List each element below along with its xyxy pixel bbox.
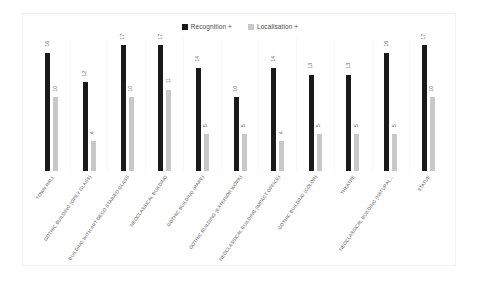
recognition-bar[interactable] [346,75,351,171]
category-tick: NEOCLASSICAL BUILDING (IMPACT OFFICE) [259,171,297,267]
plot-area: 1610124171017111451051441351351651710 [33,38,447,171]
bar-value-label: 5 [392,124,398,127]
localisation-bar[interactable] [392,134,397,171]
recognition-bar-wrap: 13 [309,38,314,171]
localisation-bar[interactable] [354,134,359,171]
bar-value-label: 13 [346,63,352,69]
bar-value-label: 12 [83,71,89,77]
localisation-bar[interactable] [242,134,247,171]
bar-group: 135 [334,38,372,171]
localisation-bar-wrap: 10 [430,38,435,171]
localisation-bar-wrap: 5 [204,38,209,171]
localisation-bar[interactable] [279,141,284,171]
bar-value-label: 10 [128,85,134,91]
bar-group: 1710 [108,38,146,171]
recognition-bar-wrap: 17 [422,38,427,171]
bar-group: 124 [71,38,109,171]
bar-group: 1610 [33,38,71,171]
bar-value-label: 17 [421,34,427,40]
localisation-bar[interactable] [129,97,134,171]
recognition-bar-wrap: 17 [158,38,163,171]
legend-label-recognition: Recognition + [191,23,232,30]
localisation-bar-wrap: 10 [53,38,58,171]
bar-value-label: 5 [204,124,210,127]
recognition-bar[interactable] [309,75,314,171]
recognition-bar[interactable] [83,82,88,171]
category-label: THEATRE [340,175,356,196]
category-tick: GOTHIC BUILDING (COLOR) [296,171,334,267]
localisation-bar-wrap: 4 [279,38,284,171]
localisation-bar[interactable] [204,134,209,171]
bar-value-label: 16 [384,41,390,47]
localisation-bar-wrap: 4 [91,38,96,171]
bar-value-label: 5 [317,124,323,127]
recognition-bar[interactable] [196,68,201,171]
bar-value-label: 17 [120,34,126,40]
bar-group: 165 [372,38,410,171]
localisation-bar-wrap: 10 [129,38,134,171]
localisation-bar-wrap: 5 [317,38,322,171]
legend-item-localisation: Localisation + [248,23,298,30]
bar-value-label: 4 [279,131,285,134]
category-tick: GOTHIC BUILDING (RARE) [184,171,222,267]
recognition-bar-wrap: 12 [83,38,88,171]
category-tick: STATUE [409,171,447,267]
bar-value-label: 17 [158,34,164,40]
recognition-bar[interactable] [158,45,163,171]
bar-group: 145 [184,38,222,171]
bar-value-label: 10 [53,85,59,91]
localisation-bar-wrap: 5 [392,38,397,171]
legend-item-recognition: Recognition + [182,23,232,30]
recognition-bar-wrap: 13 [346,38,351,171]
bar-group: 105 [221,38,259,171]
recognition-bar-wrap: 16 [45,38,50,171]
recognition-bar[interactable] [45,53,50,171]
bar-value-label: 16 [45,41,51,47]
localisation-bar[interactable] [317,134,322,171]
category-label: STATUE [418,175,432,193]
localisation-bar[interactable] [91,141,96,171]
bar-value-label: 13 [309,63,315,69]
localisation-bar-wrap: 5 [242,38,247,171]
bar-group: 144 [259,38,297,171]
recognition-bar[interactable] [234,97,239,171]
bar-value-label: 14 [196,56,202,62]
category-tick: NEOCLASSICAL BUILDING [146,171,184,267]
bar-value-label: 5 [354,124,360,127]
recognition-bar-wrap: 16 [384,38,389,171]
recognition-bar-wrap: 14 [271,38,276,171]
legend-label-localisation: Localisation + [257,23,298,30]
localisation-swatch-icon [248,24,254,30]
recognition-bar-wrap: 14 [196,38,201,171]
bar-value-label: 14 [271,56,277,62]
category-axis: TOWN HALLGOTHIC BUILDING (GREY GLASS)BUI… [33,171,447,267]
localisation-bar[interactable] [166,90,171,171]
category-tick: NEOCLASSICAL BUILDING (NATURAL... [372,171,410,267]
recognition-bar-wrap: 10 [234,38,239,171]
localisation-bar[interactable] [430,97,435,171]
bar-value-label: 11 [166,78,172,84]
recognition-bar[interactable] [422,45,427,171]
bar-groups: 1610124171017111451051441351351651710 [33,38,447,171]
chart-frame: Recognition + Localisation + 16101241710… [22,13,456,266]
category-tick: THEATRE [334,171,372,267]
localisation-bar-wrap: 5 [354,38,359,171]
bar-group: 1710 [409,38,447,171]
category-tick: BUILDING WITH ART DECO STAINED GLASS [108,171,146,267]
recognition-bar[interactable] [271,68,276,171]
bar-value-label: 10 [429,85,435,91]
recognition-bar[interactable] [121,45,126,171]
category-tick: TOWN HALL [33,171,71,267]
bar-value-label: 10 [233,85,239,91]
chart-legend: Recognition + Localisation + [23,23,457,30]
recognition-bar[interactable] [384,53,389,171]
recognition-bar-wrap: 17 [121,38,126,171]
localisation-bar[interactable] [53,97,58,171]
localisation-bar-wrap: 11 [166,38,171,171]
category-label: TOWN HALL [36,175,56,201]
bar-value-label: 4 [91,131,97,134]
bar-group: 1711 [146,38,184,171]
bar-value-label: 5 [241,124,247,127]
recognition-swatch-icon [182,24,188,30]
bar-group: 135 [296,38,334,171]
